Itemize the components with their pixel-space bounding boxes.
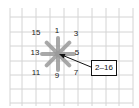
callout-box: 2–16 [91,60,117,76]
diagram-canvas [0,0,139,108]
pin-label-7: 7 [74,69,78,77]
pin-label-13: 13 [31,49,40,57]
pin-label-3: 3 [74,30,78,38]
pin-label-5: 5 [75,49,79,57]
pin-label-15: 15 [32,29,41,37]
pin-label-9: 9 [55,72,59,80]
grid [10,8,133,106]
pin-label-1: 1 [55,27,59,35]
star-connector-icon [42,38,74,70]
pin-label-11: 11 [32,69,40,77]
